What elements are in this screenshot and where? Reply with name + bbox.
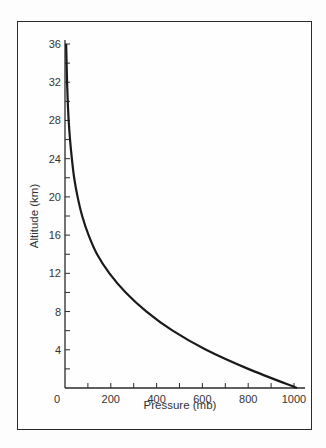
x-tick-label: 200 bbox=[102, 393, 120, 405]
y-tick-label: 8 bbox=[55, 306, 61, 318]
y-tick-label: 16 bbox=[49, 229, 61, 241]
axes bbox=[65, 40, 305, 388]
y-tick-label: 12 bbox=[49, 267, 61, 279]
ticks: 020040060080010004812162024283236 bbox=[49, 38, 306, 405]
y-tick-label: 28 bbox=[49, 114, 61, 126]
y-tick-label: 36 bbox=[49, 38, 61, 50]
y-tick-label: 24 bbox=[49, 153, 61, 165]
y-axis-title: Altitude (km) bbox=[28, 184, 40, 249]
x-tick-label: 1000 bbox=[282, 393, 306, 405]
y-tick-label: 4 bbox=[55, 344, 61, 356]
pressure-altitude-chart: 020040060080010004812162024283236 Pressu… bbox=[0, 0, 326, 448]
y-tick-label: 20 bbox=[49, 191, 61, 203]
x-axis-title: Pressure (mb) bbox=[144, 399, 217, 411]
y-tick-label: 32 bbox=[49, 76, 61, 88]
pressure-curve bbox=[66, 44, 297, 388]
x-tick-label: 0 bbox=[54, 393, 60, 405]
x-tick-label: 800 bbox=[239, 393, 257, 405]
